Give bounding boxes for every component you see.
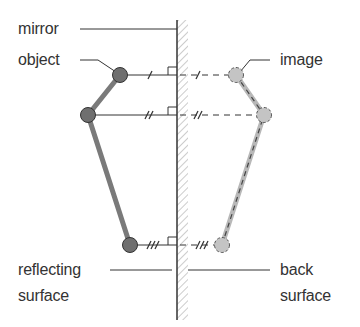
object	[81, 68, 138, 253]
label-mirror: mirror	[18, 19, 59, 39]
label-image: image	[280, 50, 323, 70]
leader-lines	[80, 29, 270, 270]
label-object: object	[18, 50, 60, 70]
mirror	[177, 20, 188, 320]
image	[215, 68, 272, 253]
label-back-surface-2: surface	[280, 286, 331, 306]
label-back-surface-1: back	[280, 260, 313, 280]
label-reflecting-surface-1: reflecting	[18, 260, 81, 280]
label-reflecting-surface-2: surface	[18, 286, 69, 306]
